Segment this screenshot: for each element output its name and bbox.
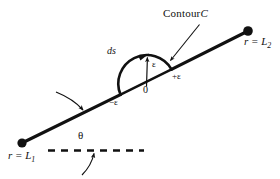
endpoint-label-l1-subscript: 1 — [31, 155, 35, 164]
diagram-canvas — [0, 0, 280, 179]
main-line-right-segment — [172, 31, 249, 69]
main-line-group — [22, 31, 248, 143]
contour-label-symbol: C — [200, 7, 208, 19]
dashed-line-pointer-arrow — [82, 154, 94, 176]
right-limit-label-plus-epsilon: +ε — [172, 72, 181, 81]
contour-diagram: ContourC r = L2 r = L1 ds ε 0 −ε +ε θ — [0, 0, 280, 179]
endpoint-label-l1: r = L1 — [8, 150, 35, 164]
endpoint-label-l2: r = L2 — [244, 36, 271, 50]
contour-label-text: Contour — [163, 7, 200, 19]
line-pointer-arrow — [56, 92, 83, 110]
arc-element-label-ds: ds — [107, 46, 116, 56]
contour-pointer-arrow — [171, 25, 200, 61]
contour-label: ContourC — [163, 8, 208, 19]
endpoint-label-l1-text: r = L — [8, 149, 31, 161]
angle-label-theta: θ — [78, 130, 83, 141]
origin-label-zero: 0 — [143, 85, 148, 95]
endpoint-label-l2-text: r = L — [244, 35, 267, 47]
left-limit-label-minus-epsilon: −ε — [109, 98, 118, 107]
endpoint-label-l2-subscript: 2 — [267, 41, 271, 50]
radius-label-epsilon: ε — [152, 60, 156, 69]
endpoint-dot-l1 — [17, 138, 26, 147]
main-line-left-segment — [22, 95, 121, 143]
